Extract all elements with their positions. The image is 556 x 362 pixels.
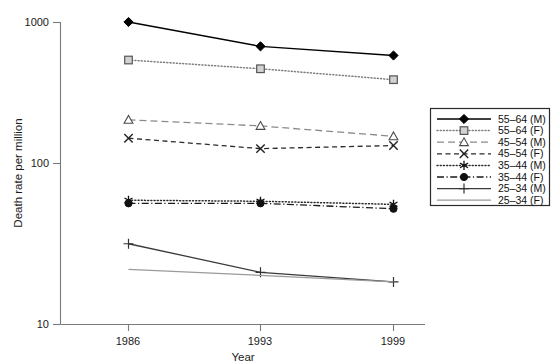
series-line	[129, 138, 394, 148]
marker-filled-circle	[460, 173, 467, 180]
y-axis-title: Death rate per million	[12, 118, 24, 227]
marker-filled-diamond	[389, 51, 398, 60]
x-axis: 1986 1993 1999 Year	[61, 325, 426, 362]
marker-filled-circle	[125, 200, 132, 207]
marker-cross-x	[389, 141, 397, 149]
marker-open-triangle	[256, 122, 265, 130]
line-chart-svg: 1000 100 10 Death rate per million 1986 …	[0, 0, 556, 362]
legend-item-label: 55–64 (M)	[498, 113, 546, 125]
legend-item-label: 55–64 (F)	[498, 124, 544, 136]
y-tick-label-1000: 1000	[25, 16, 49, 28]
marker-open-triangle	[389, 132, 398, 140]
legend-item-label: 45–54 (F)	[498, 147, 544, 159]
marker-open-square	[460, 127, 468, 135]
marker-plus	[124, 239, 134, 249]
y-tick-label-10: 10	[37, 318, 49, 330]
marker-filled-circle	[390, 205, 397, 212]
marker-open-square	[257, 65, 265, 73]
marker-open-square	[125, 56, 133, 64]
series-layer	[124, 17, 399, 287]
series-2	[124, 115, 398, 139]
legend-item-label: 25–34 (M)	[498, 182, 546, 194]
y-axis: 1000 100 10 Death rate per million	[12, 16, 61, 330]
legend-item-label: 25–34 (F)	[498, 194, 544, 206]
series-0	[124, 17, 398, 60]
legend: 55–64 (M)55–64 (F)45–54 (M)45–54 (F)35–4…	[431, 109, 550, 206]
x-axis-title: Year	[231, 351, 254, 362]
series-5	[125, 200, 397, 213]
chart-container: 1000 100 10 Death rate per million 1986 …	[0, 0, 556, 362]
series-1	[125, 56, 398, 83]
x-tick-label-1986: 1986	[116, 335, 140, 347]
legend-item-label: 35–44 (M)	[498, 159, 546, 171]
marker-filled-circle	[257, 200, 264, 207]
marker-open-square	[390, 76, 398, 84]
legend-item-label: 35–44 (F)	[498, 171, 544, 183]
y-tick-label-100: 100	[31, 157, 49, 169]
marker-filled-diamond	[256, 42, 265, 51]
marker-filled-diamond	[124, 17, 133, 26]
legend-item-label: 45–54 (M)	[498, 136, 546, 148]
x-tick-label-1993: 1993	[248, 335, 272, 347]
x-tick-label-1999: 1999	[381, 335, 405, 347]
series-3	[124, 134, 397, 153]
